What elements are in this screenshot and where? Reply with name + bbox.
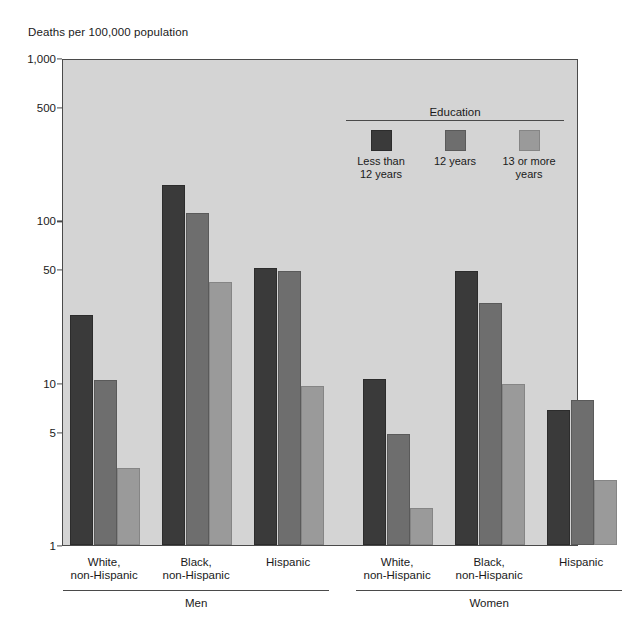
bar xyxy=(479,303,502,545)
bar xyxy=(278,271,301,545)
supergroup-label: Women xyxy=(429,597,549,609)
bar xyxy=(502,384,525,545)
legend-item: 12 years xyxy=(420,130,490,180)
bar xyxy=(547,410,570,545)
bar xyxy=(70,315,93,545)
bar xyxy=(363,379,386,545)
bar xyxy=(117,468,140,545)
y-axis-tick-label: 100 xyxy=(37,215,56,227)
bar xyxy=(410,508,433,545)
supergroup-divider xyxy=(63,590,329,591)
bar xyxy=(571,400,594,545)
y-axis: 1510501005001,000 xyxy=(0,0,62,629)
bar xyxy=(594,480,617,545)
bar xyxy=(209,282,232,546)
legend-items: Less than12 years12 years13 or moreyears xyxy=(346,130,564,180)
supergroup-label: Men xyxy=(136,597,256,609)
x-axis-category-label: Hispanic xyxy=(526,556,626,569)
bar xyxy=(455,271,478,545)
bar xyxy=(301,386,324,545)
y-axis-tick-label: 10 xyxy=(43,378,56,390)
y-axis-tick-label: 1,000 xyxy=(27,53,56,65)
legend-item-label: Less than12 years xyxy=(346,155,416,180)
legend-item: 13 or moreyears xyxy=(494,130,564,180)
legend-item: Less than12 years xyxy=(346,130,416,180)
legend-title: Education xyxy=(346,106,564,118)
bar xyxy=(186,213,209,545)
bar xyxy=(387,434,410,545)
legend-item-label: 13 or moreyears xyxy=(494,155,564,180)
y-axis-tick-label: 500 xyxy=(37,102,56,114)
legend-divider xyxy=(346,120,564,121)
x-axis-category-label: Hispanic xyxy=(233,556,343,569)
legend-swatch xyxy=(371,130,392,151)
bar xyxy=(94,380,117,545)
legend-swatch xyxy=(445,130,466,151)
legend-swatch xyxy=(519,130,540,151)
y-axis-tick-label: 50 xyxy=(43,264,56,276)
legend-item-label: 12 years xyxy=(420,155,490,168)
y-axis-tick-label: 5 xyxy=(50,427,56,439)
bar xyxy=(162,185,185,545)
legend: Education Less than12 years12 years13 or… xyxy=(346,106,564,180)
y-axis-tick-label: 1 xyxy=(50,540,56,552)
supergroup-divider xyxy=(356,590,622,591)
bar xyxy=(254,268,277,545)
